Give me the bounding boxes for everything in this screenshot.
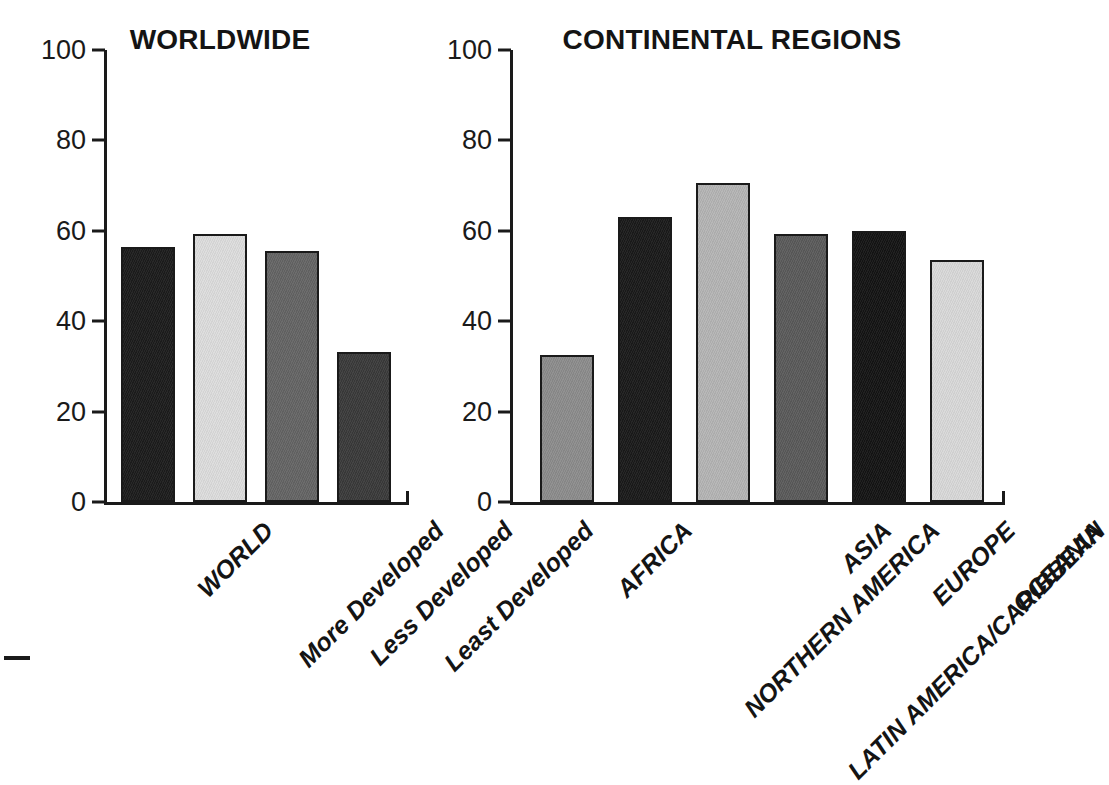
y-axis-tick-label: 60 <box>56 215 86 246</box>
y-axis-tick-label: 0 <box>477 487 492 518</box>
chart-panel-worldwide: WORLDWIDE 020406080100 WORLDMore Develop… <box>0 0 440 779</box>
y-axis-tick-label: 0 <box>71 487 86 518</box>
y-axis-tick-label: 40 <box>462 306 492 337</box>
y-axis-tick <box>498 229 511 232</box>
y-axis-tick <box>498 501 511 504</box>
bar-group-continental-regions <box>511 50 1004 502</box>
bar <box>696 183 750 502</box>
y-axis-tick <box>92 501 105 504</box>
category-label: WORLD <box>192 516 279 603</box>
bar <box>618 217 672 502</box>
bar <box>265 251 319 502</box>
category-label: OCEANIA <box>1007 516 1109 618</box>
y-axis-tick <box>498 49 511 52</box>
y-axis-tick <box>92 49 105 52</box>
y-axis-tick <box>498 410 511 413</box>
y-axis-tick <box>92 139 105 142</box>
bar <box>540 355 594 502</box>
x-axis-line-left <box>104 502 409 505</box>
plot-area-worldwide: 020406080100 WORLDMore DevelopedLess Dev… <box>105 50 408 502</box>
bar-group-worldwide <box>105 50 408 502</box>
plot-area-continental-regions: 020406080100 AFRICANORTHERN AMERICALATIN… <box>511 50 1004 502</box>
y-axis-tick <box>498 139 511 142</box>
bar <box>337 352 391 502</box>
bar <box>121 247 175 502</box>
category-label: AFRICA <box>611 516 698 603</box>
bar <box>774 234 828 502</box>
y-axis-tick <box>498 320 511 323</box>
y-axis-tick-label: 40 <box>56 306 86 337</box>
bar <box>930 260 984 502</box>
y-axis-tick <box>92 320 105 323</box>
y-axis-tick-label: 80 <box>462 125 492 156</box>
y-axis-tick <box>92 229 105 232</box>
y-axis-tick-label: 100 <box>41 35 86 66</box>
bar <box>193 234 247 502</box>
y-axis-tick-label: 20 <box>56 396 86 427</box>
y-axis-tick-label: 20 <box>462 396 492 427</box>
y-axis-tick <box>92 410 105 413</box>
x-axis-line-right <box>510 502 1005 505</box>
page-edge-dash-mark <box>4 656 30 660</box>
y-axis-tick-label: 100 <box>447 35 492 66</box>
bar <box>852 231 906 502</box>
chart-panel-continental-regions: CONTINENTAL REGIONS 020406080100 AFRICAN… <box>440 0 1024 779</box>
y-axis-tick-label: 60 <box>462 215 492 246</box>
y-axis-tick-label: 80 <box>56 125 86 156</box>
